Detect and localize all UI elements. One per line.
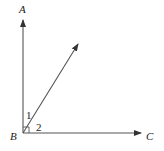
point-label-A: A bbox=[18, 3, 26, 15]
angle-label-1: 1 bbox=[26, 109, 32, 121]
angle-diagram: A B C 1 2 bbox=[0, 0, 164, 151]
point-label-C: C bbox=[146, 130, 154, 142]
point-label-B: B bbox=[10, 130, 17, 142]
angle-label-2: 2 bbox=[36, 121, 42, 133]
